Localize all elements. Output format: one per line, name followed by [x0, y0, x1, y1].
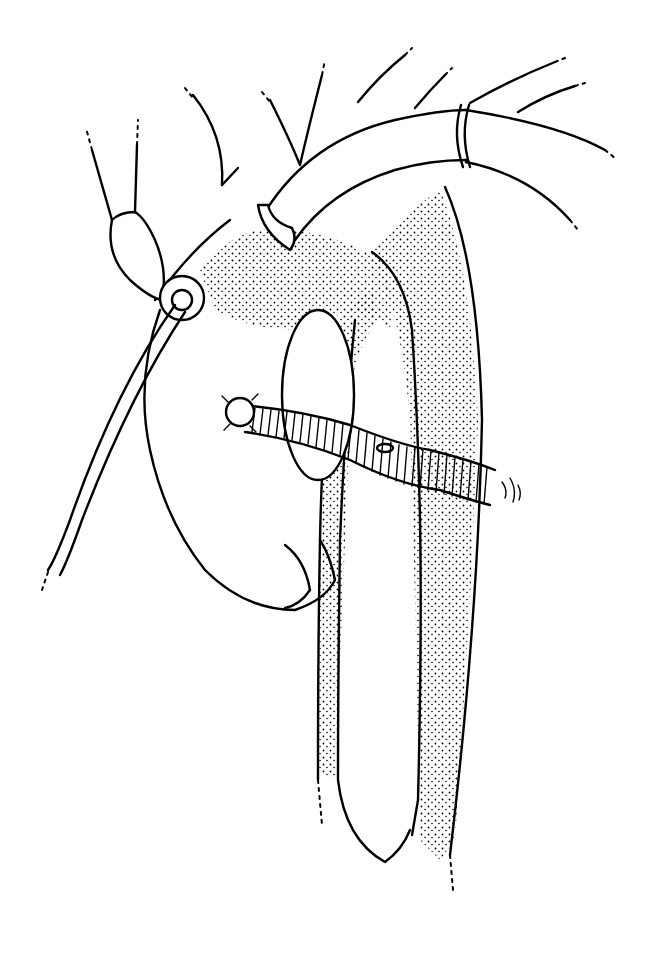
atrial-appendage — [86, 120, 204, 320]
ligature-band — [457, 105, 470, 167]
venous-cannula — [42, 305, 185, 590]
illustration-canvas — [0, 0, 650, 962]
great-vessel-branches — [185, 48, 585, 185]
surgical-diagram — [0, 0, 650, 962]
